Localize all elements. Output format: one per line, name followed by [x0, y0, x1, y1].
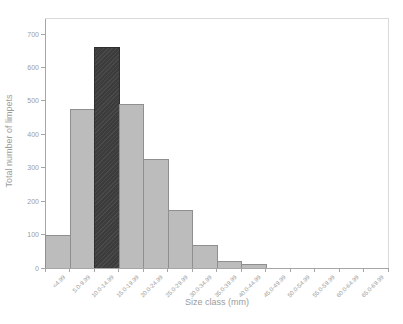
histogram-bar — [70, 109, 96, 268]
x-axis-tick — [216, 268, 217, 272]
x-axis-tick — [339, 268, 340, 272]
x-axis-tick — [167, 268, 168, 272]
x-axis-tick — [388, 268, 389, 272]
y-axis-tick-label: 500 — [12, 96, 39, 105]
x-axis-tick-label-text: 55.0-59.99 — [311, 274, 336, 299]
x-axis-tick-label-text: 40.0-44.99 — [238, 274, 263, 299]
x-axis-tick — [192, 268, 193, 272]
y-axis-tick — [41, 134, 45, 135]
x-axis-tick-label-text: 20.0-24.99 — [140, 274, 165, 299]
x-axis-tick — [363, 268, 364, 272]
x-axis-tick — [241, 268, 242, 272]
y-axis-tick — [41, 67, 45, 68]
histogram-bar — [168, 210, 194, 268]
x-axis-tick — [290, 268, 291, 272]
histogram-bar — [143, 159, 169, 268]
x-axis-tick-label-text: 30.0-34.99 — [189, 274, 214, 299]
x-axis-tick-label-text: 50.0-54.99 — [287, 274, 312, 299]
x-axis-tick-label-text: 45.0-49.99 — [262, 274, 287, 299]
y-axis-line — [45, 19, 46, 268]
y-axis-tick-label: 400 — [12, 130, 39, 139]
y-axis-tick-label: 0 — [12, 264, 39, 273]
x-axis-tick-label-text: <4.99 — [51, 274, 66, 289]
histogram-bar — [217, 261, 243, 268]
x-axis-tick — [265, 268, 266, 272]
y-axis-tick-label: 600 — [12, 63, 39, 72]
y-axis-tick-label: 700 — [12, 30, 39, 39]
x-axis-tick — [45, 268, 46, 272]
y-axis-tick — [41, 100, 45, 101]
histogram-bar — [241, 264, 267, 268]
x-axis-tick-label-text: 5.0-9.99 — [71, 274, 91, 294]
x-axis-tick — [118, 268, 119, 272]
plot-area: 0100200300400500600700<4.995.0-9.9910.0-… — [45, 18, 389, 268]
x-axis-tick — [94, 268, 95, 272]
histogram-bar — [119, 104, 145, 268]
x-axis-tick — [69, 268, 70, 272]
x-axis-title: Size class (mm) — [45, 297, 389, 307]
histogram-bar-highlighted — [94, 47, 120, 268]
x-axis-tick-label-text: 25.0-29.99 — [164, 274, 189, 299]
x-axis-tick-label-text: 35.0-39.99 — [213, 274, 238, 299]
histogram-bar — [45, 235, 71, 268]
x-axis-tick-label-text: 10.0-14.99 — [91, 274, 116, 299]
y-axis-tick — [41, 234, 45, 235]
y-axis-tick-label: 300 — [12, 163, 39, 172]
y-axis-tick-label: 100 — [12, 230, 39, 239]
x-axis-tick — [314, 268, 315, 272]
x-axis-tick-label-text: 15.0-19.99 — [115, 274, 140, 299]
x-axis-tick — [143, 268, 144, 272]
x-axis-tick-label-text: 60.0-64.99 — [336, 274, 361, 299]
x-axis-tick-label-text: 65.0-69.99 — [360, 274, 385, 299]
limpet-size-histogram: Total number of limpets 0100200300400500… — [0, 0, 403, 324]
histogram-bar — [192, 245, 218, 268]
y-axis-tick — [41, 167, 45, 168]
y-axis-tick — [41, 201, 45, 202]
y-axis-tick-label: 200 — [12, 197, 39, 206]
y-axis-tick — [41, 34, 45, 35]
